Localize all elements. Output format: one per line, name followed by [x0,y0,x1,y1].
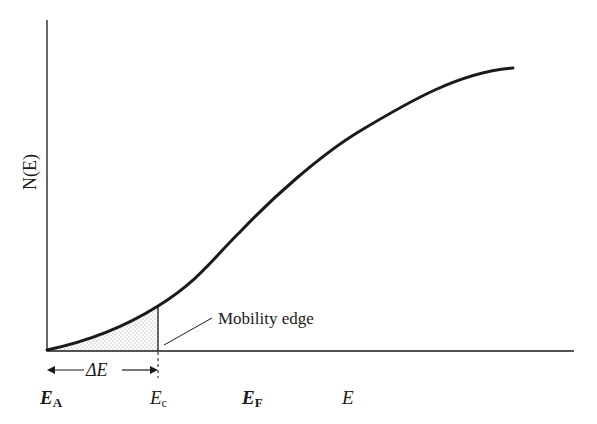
mobility-edge-label: Mobility edge [218,309,314,328]
y-axis-label: N(E) [20,154,41,190]
density-of-states-diagram: Mobility edge ΔE N(E) EA Ec EF E [0,0,597,424]
density-curve [47,68,513,350]
marker-e-f: EF [241,387,263,410]
marker-e-c: Ec [149,387,167,410]
localized-states-shading [47,306,158,350]
x-axis-label: E [341,387,354,408]
arrowhead-right-icon [150,366,158,374]
arrowhead-left-icon [47,366,55,374]
annotation-pointer [164,318,212,345]
marker-e-a: EA [39,387,63,410]
delta-e-label: ΔE [85,360,108,380]
